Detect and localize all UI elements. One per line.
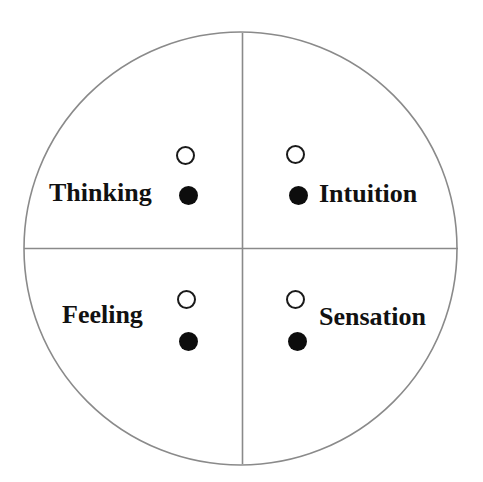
diagram-canvas <box>0 0 483 482</box>
feeling-open-circle <box>177 290 196 309</box>
jung-functions-diagram: Thinking Intuition Feeling Sensation <box>0 0 483 482</box>
quadrant-label-thinking: Thinking <box>49 180 152 206</box>
sensation-open-circle <box>286 290 305 309</box>
quadrant-label-feeling: Feeling <box>62 302 143 328</box>
intuition-filled-circle <box>289 186 308 205</box>
quadrant-label-sensation: Sensation <box>319 304 426 330</box>
thinking-filled-circle <box>179 186 198 205</box>
thinking-open-circle <box>176 146 195 165</box>
quadrant-label-intuition: Intuition <box>319 181 417 207</box>
feeling-filled-circle <box>179 332 198 351</box>
sensation-filled-circle <box>288 332 307 351</box>
intuition-open-circle <box>286 145 305 164</box>
